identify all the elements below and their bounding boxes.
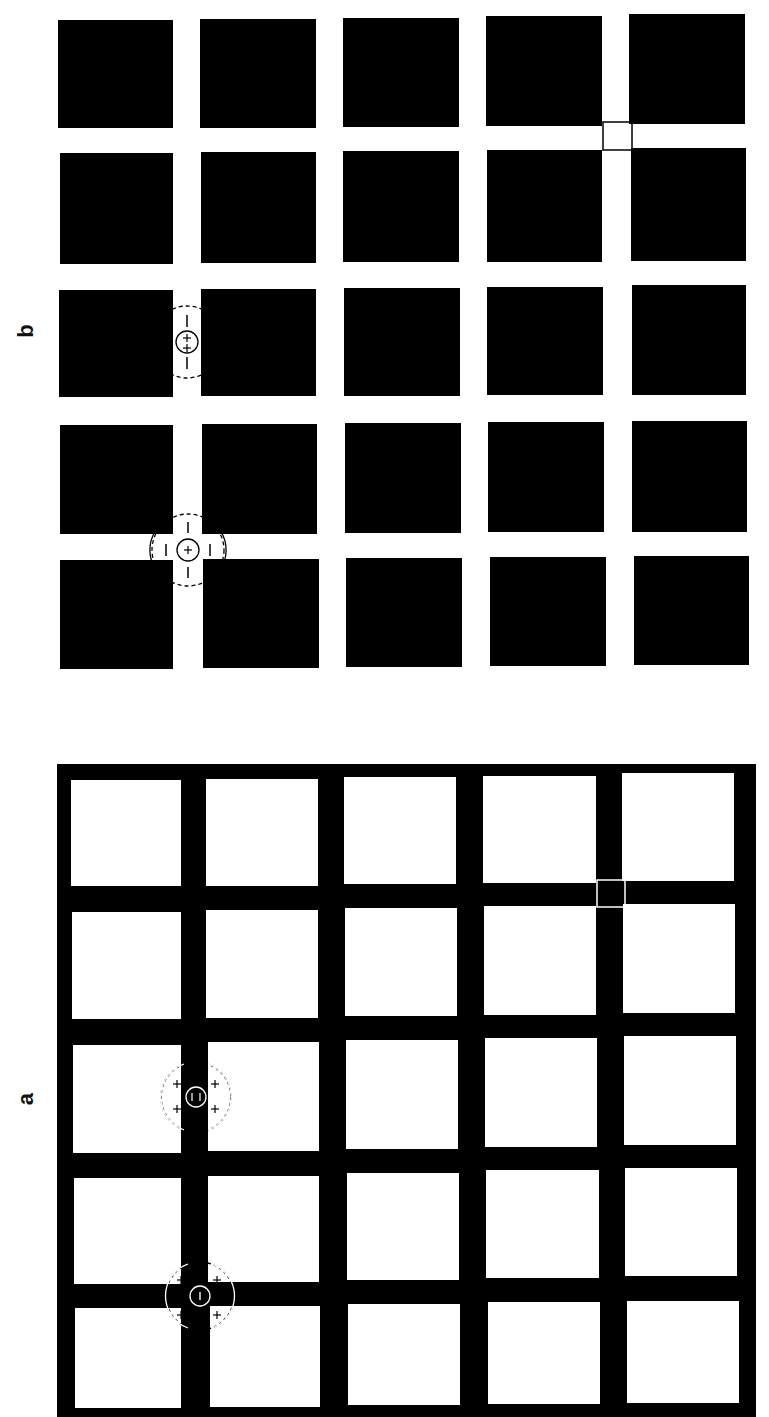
- panel-b-grid: [58, 14, 749, 669]
- hermann-grid-figure: [0, 0, 769, 1417]
- panel-b-intersection-highlight: [603, 122, 632, 150]
